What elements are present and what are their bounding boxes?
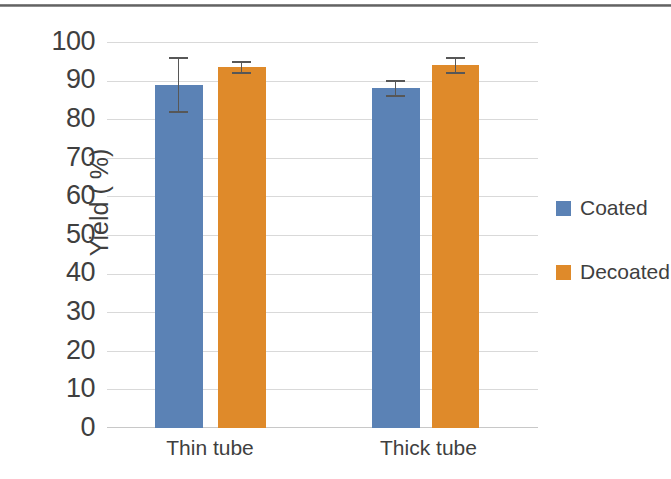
- error-cap-lower-coated-thin: [169, 111, 188, 113]
- error-cap-upper-coated-thick: [386, 80, 405, 82]
- bar-error-decoated-thick-tube-bar[interactable]: [432, 65, 479, 428]
- y-tick-label-80: 80: [31, 105, 95, 132]
- y-tick-label-100: 100: [31, 28, 95, 55]
- legend-swatch-coated-icon: [556, 201, 571, 216]
- legend-label-coated: Coated: [580, 196, 648, 220]
- error-cap-lower-decoated-thin: [232, 72, 251, 74]
- y-tick-label-0: 0: [31, 414, 95, 441]
- error-cap-upper-decoated-thin: [232, 61, 251, 63]
- error-bar-coated-thick-tube: [395, 80, 396, 95]
- error-bar-decoated-thick-tube: [455, 57, 456, 72]
- x-tick-label-thick-tube: Thick tube: [366, 436, 491, 460]
- legend-swatch-decoated-icon: [556, 265, 571, 280]
- error-bar-coated-thin-tube: [178, 57, 179, 111]
- chart-legend: Coated Decoated: [556, 196, 670, 324]
- y-tick-label-40: 40: [31, 259, 95, 286]
- bar-chart: Yield ( %) 100 90 80 70 60 50 40 30 20 1…: [0, 0, 671, 479]
- error-cap-upper-coated-thin: [169, 57, 188, 59]
- y-tick-label-90: 90: [31, 66, 95, 93]
- gridline-100: [107, 42, 538, 43]
- y-tick-label-70: 70: [31, 144, 95, 171]
- y-tick-label-60: 60: [31, 182, 95, 209]
- y-tick-label-20: 20: [31, 337, 95, 364]
- y-tick-label-30: 30: [31, 298, 95, 325]
- legend-item-coated[interactable]: Coated: [556, 196, 670, 220]
- bar-coated-thick-tube[interactable]: [372, 88, 420, 428]
- bar-decoated-thin-tube[interactable]: [218, 67, 266, 428]
- y-tick-label-10: 10: [31, 375, 95, 402]
- y-tick-label-50: 50: [31, 221, 95, 248]
- x-tick-label-thin-tube: Thin tube: [150, 436, 270, 460]
- bar-coated-thin-tube[interactable]: [155, 85, 203, 429]
- error-cap-lower-decoated-thick: [446, 72, 465, 74]
- legend-label-decoated: Decoated: [580, 260, 670, 284]
- error-cap-upper-decoated-thick: [446, 57, 465, 59]
- error-cap-lower-coated-thick: [386, 95, 405, 97]
- legend-item-decoated[interactable]: Decoated: [556, 260, 670, 284]
- plot-area: [107, 42, 538, 428]
